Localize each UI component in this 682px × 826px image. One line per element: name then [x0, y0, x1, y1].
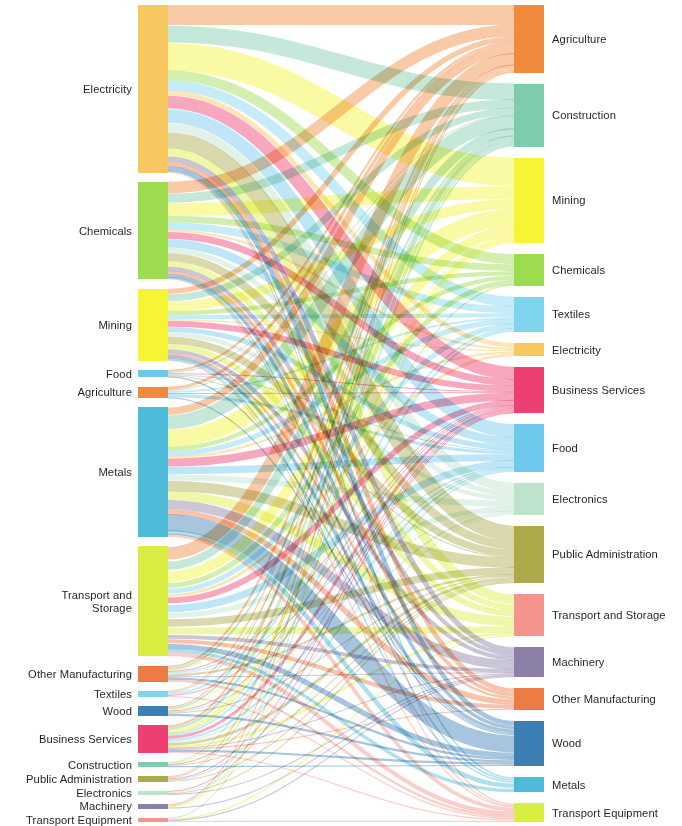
sankey-node-left-transport-and-storage[interactable]	[138, 546, 168, 656]
sankey-diagram: ElectricityChemicalsMiningFoodAgricultur…	[0, 0, 682, 826]
node-label-left-agriculture: Agriculture	[77, 386, 132, 398]
node-label-right-agriculture: Agriculture	[552, 33, 607, 45]
node-label-right-electronics: Electronics	[552, 493, 608, 505]
node-label-left-transport-and-storage: Transport andStorage	[61, 589, 132, 614]
node-label-left-electricity: Electricity	[83, 83, 132, 95]
sankey-node-right-mining[interactable]	[514, 158, 544, 243]
node-label-left-food: Food	[106, 368, 132, 380]
sankey-node-left-mining[interactable]	[138, 289, 168, 361]
sankey-node-right-food[interactable]	[514, 424, 544, 471]
sankey-node-left-food[interactable]	[138, 370, 168, 377]
sankey-canvas: ElectricityChemicalsMiningFoodAgricultur…	[0, 0, 682, 826]
sankey-node-right-public-administration[interactable]	[514, 526, 544, 584]
sankey-node-right-transport-and-storage[interactable]	[514, 594, 544, 636]
sankey-links-layer	[168, 15, 514, 822]
sankey-node-left-metals[interactable]	[138, 407, 168, 536]
sankey-node-right-metals[interactable]	[514, 777, 544, 792]
sankey-node-right-chemicals[interactable]	[514, 254, 544, 286]
sankey-node-left-public-administration[interactable]	[138, 776, 168, 781]
sankey-node-right-transport-equipment[interactable]	[514, 803, 544, 822]
sankey-node-left-electricity[interactable]	[138, 5, 168, 173]
node-label-right-transport-and-storage: Transport and Storage	[552, 609, 666, 621]
node-label-right-wood: Wood	[552, 737, 581, 749]
node-label-left-electronics: Electronics	[76, 787, 132, 799]
node-label-right-other-manufacturing: Other Manufacturing	[552, 693, 656, 705]
node-label-left-wood: Wood	[103, 705, 132, 717]
sankey-node-left-machinery[interactable]	[138, 804, 168, 808]
sankey-node-right-machinery[interactable]	[514, 647, 544, 677]
sankey-node-right-construction[interactable]	[514, 84, 544, 147]
sankey-node-right-electronics[interactable]	[514, 483, 544, 515]
node-label-right-business-services: Business Services	[552, 384, 645, 396]
sankey-link	[168, 630, 514, 631]
sankey-node-left-agriculture[interactable]	[138, 387, 168, 399]
node-label-right-chemicals: Chemicals	[552, 264, 605, 276]
node-label-right-electricity: Electricity	[552, 344, 601, 356]
sankey-link	[168, 315, 514, 317]
node-label-left-other-manufacturing: Other Manufacturing	[28, 668, 132, 680]
node-label-left-metals: Metals	[98, 466, 132, 478]
sankey-node-right-business-services[interactable]	[514, 367, 544, 413]
sankey-node-left-wood[interactable]	[138, 706, 168, 716]
node-label-left-chemicals: Chemicals	[79, 225, 132, 237]
node-label-left-machinery: Machinery	[79, 800, 132, 812]
node-label-right-transport-equipment: Transport Equipment	[552, 807, 659, 819]
sankey-node-right-wood[interactable]	[514, 721, 544, 766]
node-label-left-textiles: Textiles	[94, 688, 132, 700]
node-label-left-transport-equipment: Transport Equipment	[26, 814, 133, 826]
node-label-left-business-services: Business Services	[39, 733, 132, 745]
sankey-node-left-electronics[interactable]	[138, 791, 168, 795]
sankey-node-right-electricity[interactable]	[514, 343, 544, 356]
sankey-node-left-chemicals[interactable]	[138, 182, 168, 280]
node-label-right-textiles: Textiles	[552, 308, 590, 320]
node-label-right-food: Food	[552, 442, 578, 454]
node-label-left-mining: Mining	[98, 319, 132, 331]
sankey-node-right-agriculture[interactable]	[514, 5, 544, 73]
node-label-left-public-administration: Public Administration	[26, 773, 132, 785]
node-label-right-metals: Metals	[552, 779, 586, 791]
sankey-node-left-textiles[interactable]	[138, 691, 168, 697]
node-label-right-public-administration: Public Administration	[552, 548, 658, 560]
sankey-node-left-other-manufacturing[interactable]	[138, 666, 168, 682]
sankey-node-left-transport-equipment[interactable]	[138, 818, 168, 822]
node-label-right-mining: Mining	[552, 194, 586, 206]
sankey-node-left-business-services[interactable]	[138, 725, 168, 753]
node-label-right-construction: Construction	[552, 109, 616, 121]
node-label-left-construction: Construction	[68, 759, 132, 771]
sankey-node-right-textiles[interactable]	[514, 297, 544, 332]
sankey-node-right-other-manufacturing[interactable]	[514, 688, 544, 710]
node-label-right-machinery: Machinery	[552, 656, 605, 668]
sankey-node-left-construction[interactable]	[138, 762, 168, 767]
